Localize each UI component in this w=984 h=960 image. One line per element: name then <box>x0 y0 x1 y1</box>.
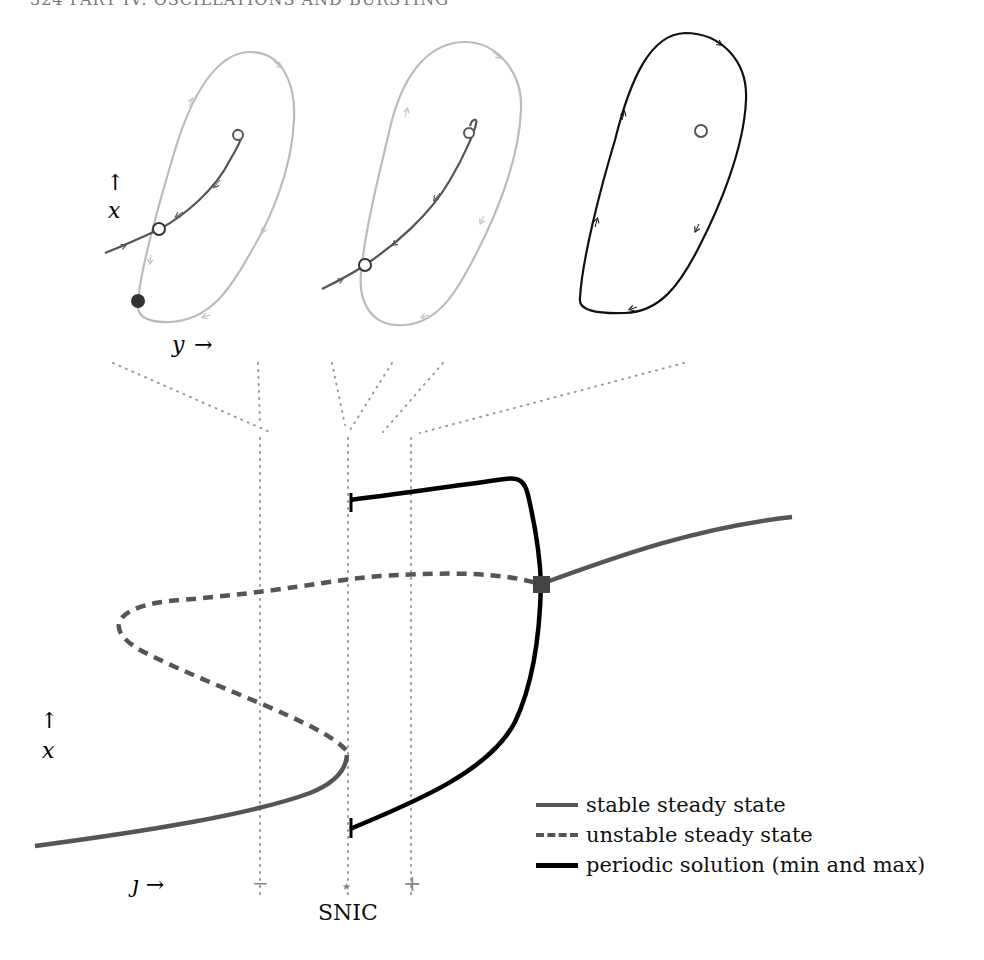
dashed-line-icon <box>536 833 578 837</box>
x-axis-label: x <box>108 198 121 223</box>
saddle-point-icon <box>153 223 165 235</box>
legend-item-stable: stable steady state <box>536 790 925 820</box>
periodic-max-branch <box>350 479 541 584</box>
stable-branch-lower <box>35 755 347 846</box>
periodic-min-branch <box>350 584 541 829</box>
y-axis-arrow-label: → <box>194 332 212 357</box>
x-axis-arrow-label: ↑ <box>106 170 124 195</box>
legend-label: unstable steady state <box>586 820 813 850</box>
snic-label: SNIC <box>318 900 378 925</box>
bif-x-label: x <box>42 738 55 763</box>
periodic-line-icon <box>536 863 578 868</box>
legend-item-unstable: unstable steady state <box>536 820 925 850</box>
y-axis-label: y <box>171 332 185 357</box>
phase-portrait-1: ↑ x y → <box>105 52 294 357</box>
stable-node-icon <box>131 294 145 308</box>
x-axis-arrow-label: ↑ <box>40 708 58 733</box>
phase-portrait-3 <box>580 33 746 313</box>
stable-branch-upper <box>541 517 792 584</box>
stable-line-icon <box>536 803 578 807</box>
marker-star: ⋆ <box>340 874 353 898</box>
unstable-focus-icon <box>464 128 474 138</box>
legend-label: periodic solution (min and max) <box>586 850 925 880</box>
marker-minus: − <box>252 871 269 895</box>
saddle-node-icon <box>359 259 371 271</box>
bif-j-label: ȷ → <box>128 872 164 897</box>
unstable-focus-icon <box>695 125 707 137</box>
unstable-focus-icon <box>233 130 243 140</box>
legend-item-periodic: periodic solution (min and max) <box>536 850 925 880</box>
legend: stable steady state unstable steady stat… <box>536 790 925 880</box>
unstable-branch <box>119 574 540 750</box>
hopf-point-icon <box>533 576 550 593</box>
legend-label: stable steady state <box>586 790 786 820</box>
phase-portrait-2 <box>322 42 521 325</box>
marker-plus: + <box>403 871 421 896</box>
